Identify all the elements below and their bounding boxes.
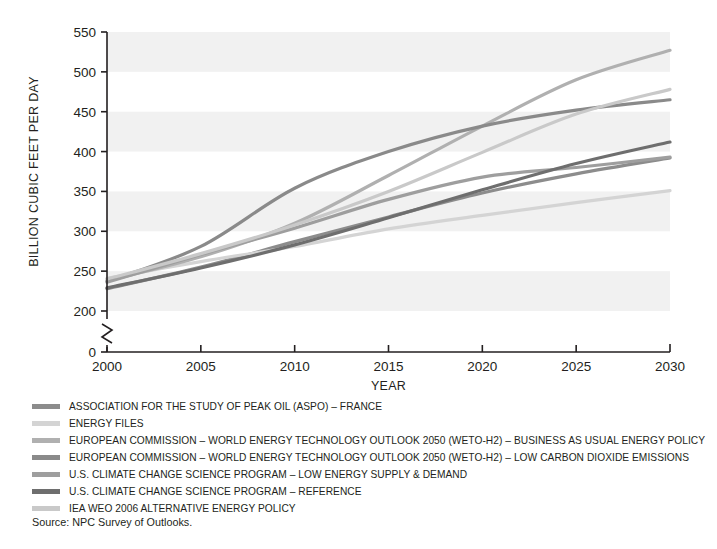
legend-item-label: EUROPEAN COMMISSION – WORLD ENERGY TECHN…: [69, 435, 705, 446]
legend-swatch-icon: [32, 438, 60, 443]
legend-item[interactable]: U.S. CLIMATE CHANGE SCIENCE PROGRAM – RE…: [0, 483, 717, 500]
legend-item-label: U.S. CLIMATE CHANGE SCIENCE PROGRAM – LO…: [69, 469, 467, 480]
background-band: [107, 32, 670, 72]
y-axis-break-icon: [102, 324, 112, 343]
chart-plot-area: 0200250300350400450500550200020052010201…: [0, 0, 717, 400]
figure-root: 0200250300350400450500550200020052010201…: [0, 0, 717, 549]
legend-item[interactable]: U.S. CLIMATE CHANGE SCIENCE PROGRAM – LO…: [0, 466, 717, 483]
x-tick-label: 2005: [186, 359, 216, 374]
legend-item-label: EUROPEAN COMMISSION – WORLD ENERGY TECHN…: [69, 452, 689, 463]
legend-swatch-icon: [32, 472, 60, 477]
x-tick-label: 2010: [280, 359, 310, 374]
legend-item-label: U.S. CLIMATE CHANGE SCIENCE PROGRAM – RE…: [69, 486, 362, 497]
legend-item-label: ENERGY FILES: [69, 418, 144, 429]
y-tick-label: 250: [73, 264, 96, 279]
y-tick-label: 350: [73, 184, 96, 199]
x-tick-label: 2030: [655, 359, 685, 374]
x-axis-title: YEAR: [371, 379, 406, 393]
x-tick-label: 2015: [373, 359, 403, 374]
x-tick-label: 2020: [467, 359, 497, 374]
legend-item[interactable]: IEA WEO 2006 ALTERNATIVE ENERGY POLICY: [0, 500, 717, 517]
y-tick-label: 200: [73, 304, 96, 319]
y-tick-label: 0: [88, 345, 96, 360]
line-chart-svg: 0200250300350400450500550200020052010201…: [0, 0, 717, 400]
background-band: [107, 271, 670, 311]
legend-item[interactable]: ASSOCIATION FOR THE STUDY OF PEAK OIL (A…: [0, 398, 717, 415]
source-note: Source: NPC Survey of Outlooks.: [32, 516, 192, 528]
y-tick-label: 300: [73, 224, 96, 239]
legend-item-label: ASSOCIATION FOR THE STUDY OF PEAK OIL (A…: [69, 401, 382, 412]
x-tick-label: 2025: [561, 359, 591, 374]
legend-item[interactable]: ENERGY FILES: [0, 415, 717, 432]
background-band: [107, 112, 670, 152]
legend-swatch-icon: [32, 455, 60, 460]
legend-swatch-icon: [32, 404, 60, 409]
chart-legend: ASSOCIATION FOR THE STUDY OF PEAK OIL (A…: [0, 398, 717, 517]
legend-swatch-icon: [32, 489, 60, 494]
y-tick-label: 500: [73, 65, 96, 80]
background-band: [107, 191, 670, 231]
x-tick-label: 2000: [92, 359, 122, 374]
legend-item[interactable]: EUROPEAN COMMISSION – WORLD ENERGY TECHN…: [0, 432, 717, 449]
legend-swatch-icon: [32, 421, 60, 426]
legend-swatch-icon: [32, 506, 60, 511]
y-tick-label: 550: [73, 25, 96, 40]
y-axis-title: BILLION CUBIC FEET PER DAY: [27, 76, 41, 267]
legend-item-label: IEA WEO 2006 ALTERNATIVE ENERGY POLICY: [69, 503, 296, 514]
y-tick-label: 400: [73, 145, 96, 160]
y-tick-label: 450: [73, 105, 96, 120]
legend-item[interactable]: EUROPEAN COMMISSION – WORLD ENERGY TECHN…: [0, 449, 717, 466]
